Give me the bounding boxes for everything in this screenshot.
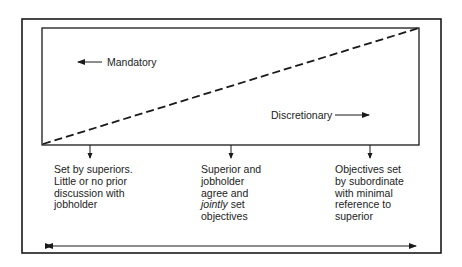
stage-note-middle: Superior and jobholder agree and jointly… [201, 164, 261, 223]
dashed-diagonal-line [43, 28, 419, 144]
note-line: by subordinate [335, 176, 404, 188]
stage-note-left: Set by superiors. Little or no prior dis… [54, 164, 133, 211]
note-line: jobholder [201, 176, 261, 188]
left-arrowhead-icon [45, 243, 53, 249]
note-line: Little or no prior [54, 176, 133, 188]
note-line-rest: set [231, 198, 245, 210]
discretionary-label: Discretionary [271, 109, 332, 121]
note-line: objectives [201, 211, 261, 223]
note-line: jobholder [54, 199, 133, 211]
stage-note-right: Objectives set by subordinate with minim… [335, 164, 404, 223]
note-line: superior [335, 211, 404, 223]
diagram-canvas [0, 0, 462, 267]
emphasis-word: jointly [201, 198, 228, 210]
mandatory-label: Mandatory [107, 56, 157, 68]
